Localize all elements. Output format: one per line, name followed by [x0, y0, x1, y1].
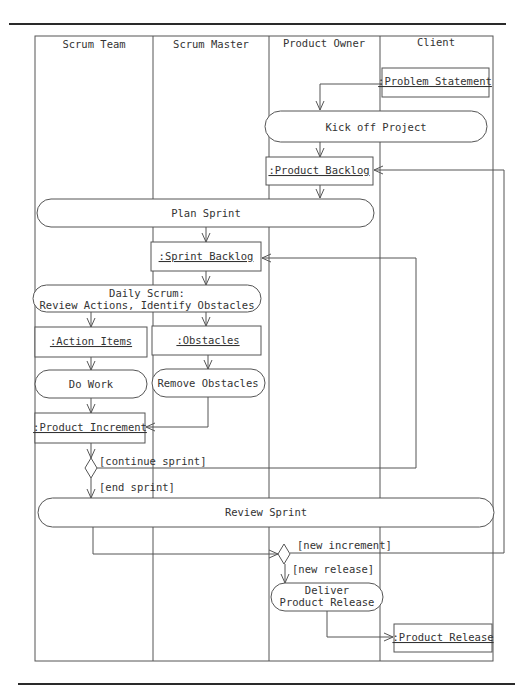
object-product-backlog-label: :Product Backlog [268, 164, 369, 176]
activity-deliver-line1: Deliver [305, 584, 349, 596]
object-obstacles: :Obstacles [152, 326, 261, 355]
object-product-backlog: :Product Backlog [266, 157, 373, 185]
lane-header-product-owner: Product Owner [283, 37, 365, 49]
activity-plan-sprint-label: Plan Sprint [171, 207, 241, 219]
object-product-increment: :Product Increment [33, 413, 147, 443]
activity-daily-scrum: Daily Scrum: Review Actions, Identify Ob… [33, 285, 261, 312]
lane-header-scrum-team: Scrum Team [62, 38, 125, 50]
activity-kick-off-label: Kick off Project [325, 121, 426, 133]
activity-deliver-product-release: Deliver Product Release [271, 583, 383, 611]
object-sprint-backlog-label: :Sprint Backlog [159, 250, 254, 262]
flow-deliver-to-release [327, 611, 393, 637]
activity-do-work: Do Work [35, 370, 147, 398]
guard-continue-sprint: [continue sprint] [99, 455, 206, 467]
activity-daily-scrum-line2: Review Actions, Identify Obstacles [40, 299, 255, 311]
activity-do-work-label: Do Work [69, 378, 114, 390]
guard-new-increment: [new increment] [297, 539, 392, 551]
guard-end-sprint: [end sprint] [99, 481, 175, 493]
object-product-increment-label: :Product Increment [33, 421, 147, 433]
object-problem-statement-label: :Problem Statement [378, 75, 492, 87]
object-sprint-backlog: :Sprint Backlog [151, 242, 261, 271]
object-product-release-label: :Product Release [392, 631, 493, 643]
activity-remove-obstacles-label: Remove Obstacles [157, 377, 258, 389]
flow-remove-obstacles-to-increment [146, 397, 208, 427]
object-obstacles-label: :Obstacles [176, 334, 239, 346]
flow-problem-to-kickoff [320, 84, 382, 110]
activity-daily-scrum-line1: Daily Scrum: [109, 287, 185, 299]
activity-diagram: Scrum Team Scrum Master Product Owner Cl… [0, 0, 527, 693]
object-action-items: :Action Items [35, 327, 147, 357]
activity-remove-obstacles: Remove Obstacles [152, 369, 265, 397]
activity-kick-off-project: Kick off Project [265, 111, 487, 142]
activity-review-sprint-label: Review Sprint [225, 506, 307, 518]
lane-header-scrum-master: Scrum Master [173, 38, 249, 50]
decision-sprint [85, 458, 97, 478]
activity-plan-sprint: Plan Sprint [37, 199, 374, 227]
activity-review-sprint: Review Sprint [38, 498, 494, 527]
object-action-items-label: :Action Items [50, 335, 132, 347]
lane-header-client: Client [417, 36, 455, 48]
object-product-release: :Product Release [392, 624, 493, 652]
object-problem-statement: :Problem Statement [378, 68, 492, 97]
decision-release [278, 544, 290, 564]
activity-deliver-line2: Product Release [280, 596, 375, 608]
guard-new-release: [new release] [292, 563, 374, 575]
flow-review-to-release-decision [93, 527, 278, 554]
